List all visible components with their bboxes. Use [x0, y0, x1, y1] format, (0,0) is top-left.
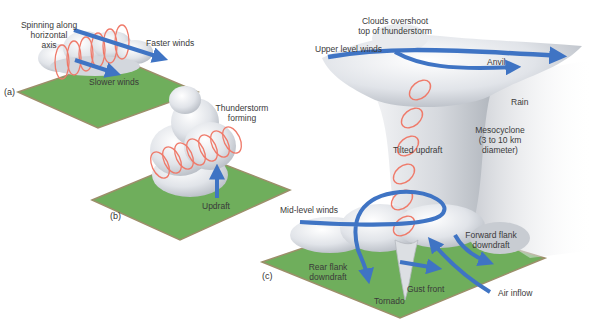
label-air-inflow: Air inflow — [498, 288, 532, 298]
label-forming-line2: forming — [212, 113, 272, 123]
label-spinning-axis: Spinning along horizontal axis — [14, 20, 84, 50]
label-rfd-line1: Rear flank — [300, 262, 356, 272]
label-mesocyclone: Mesocyclone (3 to 10 km diameter) — [470, 125, 530, 155]
label-slower-winds: Slower winds — [89, 77, 139, 87]
label-ffd-line2: downdraft — [456, 240, 526, 250]
label-gust-front: Gust front — [407, 284, 444, 294]
label-updraft: Updraft — [202, 201, 230, 211]
label-tornado: Tornado — [374, 296, 405, 306]
label-faster-winds: Faster winds — [146, 38, 194, 48]
label-overshoot-line1: Clouds overshoot — [340, 16, 450, 26]
panel-tag-b: (b) — [110, 211, 121, 221]
label-anvil: Anvil — [487, 57, 505, 67]
label-meso-line2: (3 to 10 km — [470, 135, 530, 145]
label-spinning-line1: Spinning along — [14, 20, 84, 30]
label-spinning-line2: horizontal — [14, 30, 84, 40]
label-rain: Rain — [511, 97, 528, 107]
label-upper-level-winds: Upper level winds — [315, 44, 382, 54]
label-forward-flank-downdraft: Forward flank downdraft — [456, 230, 526, 250]
label-ffd-line1: Forward flank — [456, 230, 526, 240]
label-meso-line3: diameter) — [470, 145, 530, 155]
label-clouds-overshoot: Clouds overshoot top of thunderstorm — [340, 16, 450, 36]
label-mid-level-winds: Mid-level winds — [280, 205, 338, 215]
label-thunderstorm-forming: Thunderstorm forming — [212, 103, 272, 123]
label-overshoot-line2: top of thunderstorm — [340, 26, 450, 36]
label-rfd-line2: downdraft — [300, 272, 356, 282]
label-tilted-updraft: Tilted updraft — [393, 145, 442, 155]
panel-tag-c: (c) — [262, 271, 273, 281]
label-forming-line1: Thunderstorm — [212, 103, 272, 113]
panel-tag-a: (a) — [4, 87, 15, 97]
label-spinning-line3: axis — [14, 40, 84, 50]
tornado-formation-diagram — [0, 0, 594, 329]
label-rear-flank-downdraft: Rear flank downdraft — [300, 262, 356, 282]
label-meso-line1: Mesocyclone — [470, 125, 530, 135]
